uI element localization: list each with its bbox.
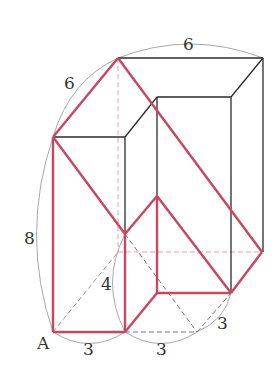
label-bottom-left: 3 <box>83 339 94 359</box>
label-top-width: 6 <box>183 34 194 54</box>
label-bottom-right: 3 <box>217 313 228 333</box>
solid-diagram: 6 6 8 4 A 3 3 3 <box>0 0 277 376</box>
label-vertex-a: A <box>36 333 50 353</box>
label-inner-height: 4 <box>101 274 112 294</box>
diagram-canvas: 6 6 8 4 A 3 3 3 <box>0 0 277 376</box>
label-top-depth: 6 <box>64 73 75 93</box>
label-height: 8 <box>24 228 35 248</box>
label-bottom-mid: 3 <box>156 339 167 359</box>
